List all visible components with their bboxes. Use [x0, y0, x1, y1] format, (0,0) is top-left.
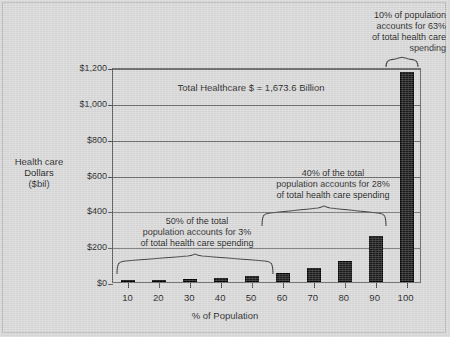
x-axis-tick-label: 50	[236, 293, 266, 303]
gridline	[113, 69, 420, 70]
x-axis-tick-label: 40	[205, 293, 235, 303]
x-axis-tick-label: 70	[298, 293, 328, 303]
x-axis-tick-label: 10	[112, 293, 142, 303]
x-axis-tick	[221, 283, 222, 288]
bar	[214, 278, 228, 282]
x-axis-tick-label: 100	[391, 293, 421, 303]
bar	[152, 280, 166, 283]
x-axis-tick	[128, 283, 129, 288]
y-axis-tick-labels: $0$200$400$600$800$1,000$1,200	[55, 60, 107, 290]
bar	[338, 261, 352, 283]
annotation-bottom-50-percent: 50% of the total population accounts for…	[112, 216, 282, 249]
x-axis-tick	[159, 283, 160, 288]
brace-bottom-50-percent	[116, 253, 274, 275]
bar	[121, 280, 135, 282]
x-axis-tick	[283, 283, 284, 288]
x-axis-tick	[345, 283, 346, 288]
x-axis-tick-label: 30	[174, 293, 204, 303]
bar	[183, 279, 197, 282]
y-axis-tick-label: $200	[87, 243, 107, 252]
x-axis-tick	[376, 283, 377, 288]
y-axis-tick	[108, 141, 113, 142]
annotation-total-healthcare: Total Healthcare $ = 1,673.6 Billion	[140, 82, 362, 93]
x-axis-tick	[314, 283, 315, 288]
x-axis-tick-label: 60	[267, 293, 297, 303]
bar	[276, 273, 290, 282]
annotation-top-10-percent: 10% of population accounts for 63% of to…	[316, 10, 446, 54]
x-axis-tick	[407, 283, 408, 288]
y-axis-tick-label: $0	[97, 279, 107, 288]
y-axis-tick-label: $400	[87, 207, 107, 216]
y-axis-tick	[108, 212, 113, 213]
x-axis-tick-label: 80	[329, 293, 359, 303]
y-axis-tick-label: $1,000	[79, 100, 107, 109]
x-axis-tick-label: 90	[360, 293, 390, 303]
y-axis-tick	[108, 284, 113, 285]
gridline	[113, 141, 420, 142]
x-axis-tick-label: 20	[143, 293, 173, 303]
bar	[307, 268, 321, 282]
annotation-middle-40-percent: 40% of the total population accounts for…	[255, 168, 411, 201]
y-axis-tick	[108, 105, 113, 106]
y-axis-tick	[108, 177, 113, 178]
bar	[369, 236, 383, 282]
x-axis-tick	[190, 283, 191, 288]
brace-top-10-percent	[385, 56, 419, 68]
x-axis-title: % of Population	[0, 310, 450, 321]
bar	[245, 276, 259, 282]
x-axis-tick	[252, 283, 253, 288]
brace-middle-40-percent	[261, 205, 387, 227]
gridline	[113, 105, 420, 106]
y-axis-tick-label: $1,200	[79, 64, 107, 73]
y-axis-tick-label: $600	[87, 172, 107, 181]
y-axis-tick-label: $800	[87, 136, 107, 145]
y-axis-tick	[108, 69, 113, 70]
